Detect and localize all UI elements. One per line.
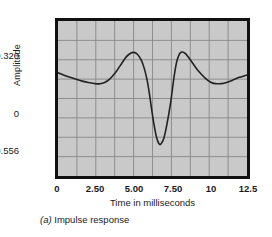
caption-text: Impulse response xyxy=(54,214,129,225)
plot-area xyxy=(55,18,250,179)
x-axis-title: Time in milliseconds xyxy=(55,197,250,208)
plot-inner xyxy=(58,21,247,176)
x-tick-label-2: 5.00 xyxy=(114,183,154,194)
impulse-response-curve xyxy=(58,21,247,176)
caption-prefix: (a) xyxy=(40,214,52,225)
x-tick-label-0: 0 xyxy=(37,183,77,194)
y-tick-label-1: 0 xyxy=(0,108,19,119)
x-tick-label-4: 10 xyxy=(191,183,231,194)
y-axis-title: Amplitude xyxy=(12,20,22,110)
x-tick-label-3: 7.50 xyxy=(153,183,193,194)
y-tick-label-0: 0.320 xyxy=(0,50,19,61)
x-tick-label-1: 2.50 xyxy=(75,183,115,194)
x-tick-label-5: 12.5 xyxy=(228,183,268,194)
figure-caption: (a) Impulse response xyxy=(40,214,129,225)
impulse-response-figure: Amplitude 0.320 0 −0.556 0 2.50 5.00 7.5… xyxy=(0,0,272,237)
y-tick-label-2: −0.556 xyxy=(0,145,19,156)
